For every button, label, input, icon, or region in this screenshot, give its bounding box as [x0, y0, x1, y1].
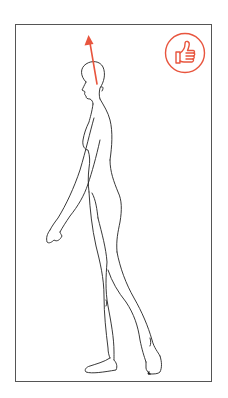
- thumbs-up-icon: [164, 32, 206, 74]
